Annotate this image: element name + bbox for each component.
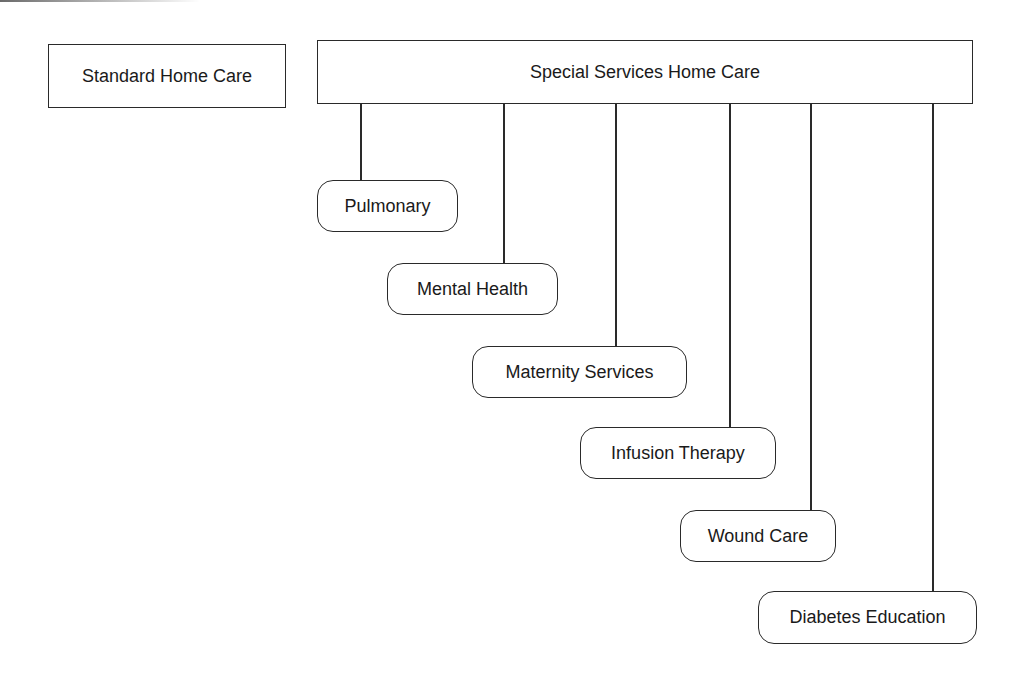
mental-health-label: Mental Health xyxy=(417,279,528,300)
connector-mental-health xyxy=(503,103,505,264)
special-services-home-care-box: Special Services Home Care xyxy=(317,40,973,104)
connector-pulmonary xyxy=(360,103,362,181)
connector-diabetes-education xyxy=(932,103,934,592)
wound-care-node: Wound Care xyxy=(680,510,836,562)
diabetes-education-node: Diabetes Education xyxy=(758,591,977,644)
connector-maternity-services xyxy=(615,103,617,347)
connector-infusion-therapy xyxy=(729,103,731,428)
infusion-therapy-node: Infusion Therapy xyxy=(580,427,776,479)
special-services-home-care-label: Special Services Home Care xyxy=(530,62,760,83)
pulmonary-label: Pulmonary xyxy=(344,196,430,217)
maternity-services-label: Maternity Services xyxy=(505,362,653,383)
infusion-therapy-label: Infusion Therapy xyxy=(611,443,745,464)
connector-wound-care xyxy=(810,103,812,511)
pulmonary-node: Pulmonary xyxy=(317,180,458,232)
wound-care-label: Wound Care xyxy=(708,526,809,547)
top-edge-line xyxy=(0,0,200,2)
standard-home-care-label: Standard Home Care xyxy=(82,66,252,87)
mental-health-node: Mental Health xyxy=(387,263,558,315)
standard-home-care-box: Standard Home Care xyxy=(48,44,286,108)
diabetes-education-label: Diabetes Education xyxy=(789,607,945,628)
maternity-services-node: Maternity Services xyxy=(472,346,687,398)
